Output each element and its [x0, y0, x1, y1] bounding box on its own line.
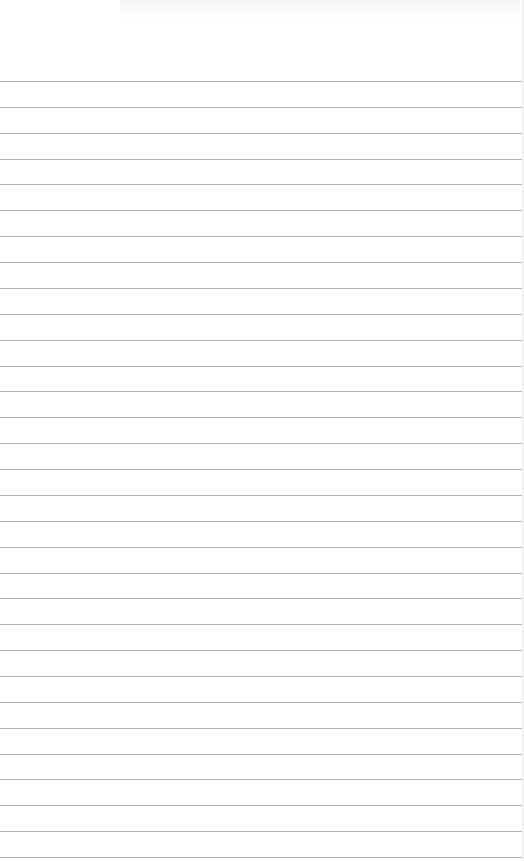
ruled-line — [0, 81, 522, 82]
ruled-line — [0, 184, 522, 185]
ruled-line — [0, 236, 522, 237]
ruled-line — [0, 702, 522, 703]
ruled-line — [0, 805, 522, 806]
ruled-line — [0, 521, 522, 522]
ruled-line — [0, 133, 522, 134]
ruled-line — [0, 857, 522, 858]
ruled-line — [0, 262, 522, 263]
ruled-line — [0, 650, 522, 651]
ruled-line — [0, 288, 522, 289]
ruled-line — [0, 391, 522, 392]
ruled-line — [0, 340, 522, 341]
ruled-line — [0, 210, 522, 211]
ruled-line — [0, 417, 522, 418]
ruled-line — [0, 754, 522, 755]
ruled-line — [0, 547, 522, 548]
ruled-line — [0, 159, 522, 160]
ruled-line — [0, 314, 522, 315]
ruled-line — [0, 366, 522, 367]
ruled-line — [0, 831, 522, 832]
ruled-line — [0, 676, 522, 677]
ruled-line — [0, 728, 522, 729]
ruled-line — [0, 573, 522, 574]
ruled-line — [0, 624, 522, 625]
ruled-line — [0, 443, 522, 444]
ruled-line — [0, 779, 522, 780]
ruled-line — [0, 495, 522, 496]
ruled-line — [0, 107, 522, 108]
faint-header-bleed — [120, 0, 520, 20]
ruled-line — [0, 598, 522, 599]
ruled-line — [0, 469, 522, 470]
